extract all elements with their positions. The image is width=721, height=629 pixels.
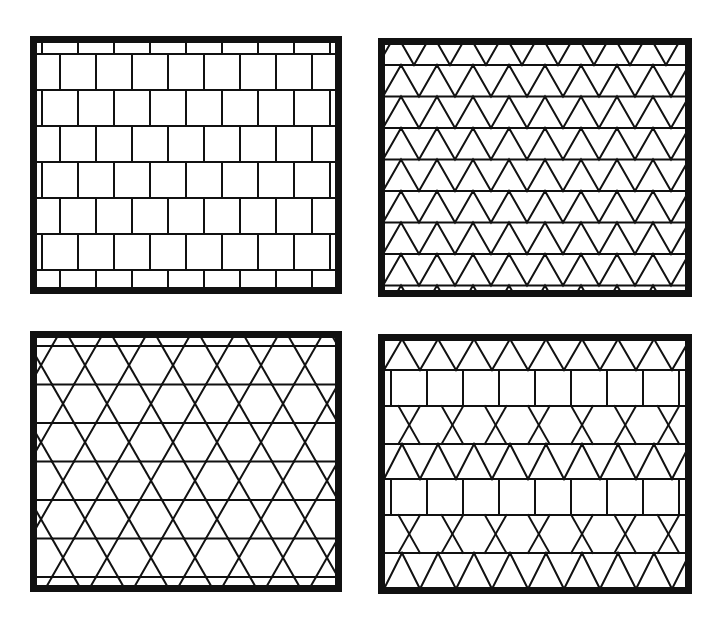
trihexagonal-tiling-pattern	[30, 331, 342, 592]
panel-trihexagonal-tiling	[30, 331, 342, 592]
square-tiling-pattern	[30, 36, 342, 294]
mixed-triangle-square-tiling-pattern	[378, 334, 692, 594]
panel-triangular-tiling	[378, 38, 692, 297]
panel-mixed-triangle-square-tiling	[378, 334, 692, 594]
panel-square-tiling	[30, 36, 342, 294]
triangular-tiling-pattern	[378, 38, 692, 297]
